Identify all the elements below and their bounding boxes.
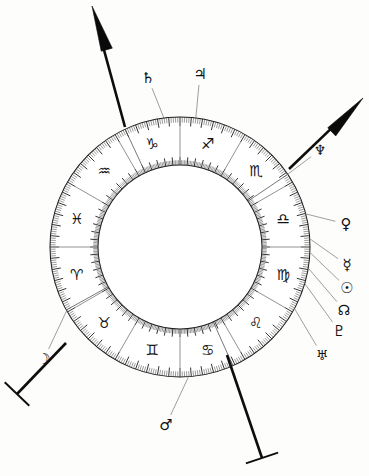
aries-glyph: ♈ bbox=[70, 266, 83, 284]
mc-axis-shaft bbox=[102, 42, 125, 127]
scorpio-glyph: ♏ bbox=[249, 162, 263, 180]
astrology-chart-canvas: ♐♑♒♓♈♉♊♋♌♍♎♏ ♄♃♆♀☿☉☊♇♅♂☽ bbox=[0, 0, 369, 476]
moon-glyph: ☽ bbox=[37, 350, 50, 368]
leader-line-venus-glyph bbox=[305, 214, 336, 222]
inner-ring-circle bbox=[98, 165, 262, 329]
mars-glyph: ♂ bbox=[159, 416, 172, 434]
uranus-glyph: ♅ bbox=[316, 347, 329, 363]
sagittarius-glyph: ♐ bbox=[201, 135, 214, 153]
ascendant-axis-shaft bbox=[289, 124, 336, 169]
mc-axis-arrowhead bbox=[92, 6, 112, 51]
leader-line-pluto-glyph bbox=[304, 283, 333, 323]
capricorn-glyph: ♑ bbox=[146, 135, 159, 153]
mercury-glyph: ☿ bbox=[342, 256, 351, 274]
virgo-glyph: ♍ bbox=[277, 266, 290, 284]
pisces-glyph: ♓ bbox=[70, 210, 83, 228]
ascendant-axis-arrowhead bbox=[328, 98, 363, 136]
venus-glyph: ♀ bbox=[341, 215, 352, 233]
libra-glyph: ♎ bbox=[277, 210, 290, 228]
cancer-glyph: ♋ bbox=[201, 341, 214, 359]
aquarius-glyph: ♒ bbox=[98, 162, 111, 180]
saturn-glyph: ♄ bbox=[141, 69, 154, 87]
neptune-glyph: ♆ bbox=[314, 142, 327, 158]
leader-line-mars-glyph bbox=[171, 376, 189, 415]
pluto-glyph: ♇ bbox=[332, 322, 345, 340]
leo-glyph: ♌ bbox=[249, 314, 262, 332]
leader-line-jupiter-glyph bbox=[196, 85, 199, 119]
leader-line-north-node-glyph bbox=[307, 267, 336, 301]
taurus-glyph: ♉ bbox=[98, 314, 111, 332]
leader-line-uranus-glyph bbox=[294, 308, 316, 346]
north-node-glyph: ☊ bbox=[338, 302, 350, 318]
jupiter-glyph: ♃ bbox=[193, 65, 206, 83]
leader-line-saturn-glyph bbox=[152, 88, 164, 119]
ic-axis-shaft bbox=[227, 355, 262, 458]
gemini-glyph: ♊ bbox=[146, 341, 159, 359]
sun-glyph: ☉ bbox=[340, 279, 353, 297]
chart-wheel-svg: ♐♑♒♓♈♉♊♋♌♍♎♏ ♄♃♆♀☿☉☊♇♅♂☽ bbox=[0, 0, 369, 476]
